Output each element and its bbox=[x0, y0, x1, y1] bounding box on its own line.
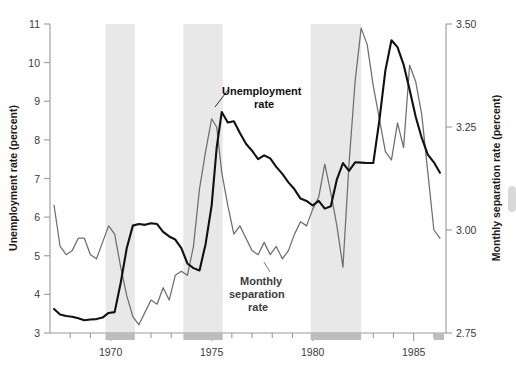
recession-band-foot-1 bbox=[106, 333, 135, 340]
recession-band-foot-4 bbox=[434, 333, 444, 340]
dual-axis-line-chart: 34567891011 2.753.003.253.50 19701975198… bbox=[0, 0, 516, 377]
left-tick-label-7: 7 bbox=[34, 173, 40, 185]
bottom-tick-label-1975: 1975 bbox=[200, 346, 224, 358]
recession-band-foot-2 bbox=[183, 333, 222, 340]
bottom-tick-label-1980: 1980 bbox=[301, 346, 325, 358]
left-tick-label-9: 9 bbox=[34, 95, 40, 107]
right-tick-label-2.75: 2.75 bbox=[456, 327, 477, 339]
left-tick-label-5: 5 bbox=[34, 250, 40, 262]
chart-background bbox=[0, 0, 516, 377]
left-tick-label-3: 3 bbox=[34, 327, 40, 339]
separation-annotation-line2: separation bbox=[229, 288, 285, 300]
left-tick-label-10: 10 bbox=[28, 57, 40, 69]
unemployment-annotation-line1: Unemployment bbox=[222, 85, 302, 97]
recession-band-3 bbox=[311, 24, 362, 333]
separation-annotation-line3: rate bbox=[248, 301, 268, 313]
right-axis-title: Monthly separation rate (percent) bbox=[490, 95, 502, 261]
bottom-tick-label-1985: 1985 bbox=[402, 346, 426, 358]
left-tick-label-11: 11 bbox=[29, 18, 40, 30]
left-axis-title: Unemployment rate (percent) bbox=[7, 105, 19, 251]
right-tick-label-3.25: 3.25 bbox=[456, 121, 477, 133]
chart-container: 34567891011 2.753.003.253.50 19701975198… bbox=[0, 0, 516, 377]
right-tick-label-3: 3.00 bbox=[456, 224, 477, 236]
recession-band-2 bbox=[183, 24, 222, 333]
left-tick-label-8: 8 bbox=[34, 134, 40, 146]
bottom-tick-label-1970: 1970 bbox=[99, 346, 123, 358]
right-tick-label-3.5: 3.50 bbox=[456, 18, 477, 30]
separation-annotation-line1: Monthly bbox=[240, 275, 283, 287]
recession-band-foot-3 bbox=[311, 333, 362, 340]
left-tick-label-6: 6 bbox=[34, 211, 40, 223]
page-edge-artifact bbox=[508, 186, 516, 212]
left-tick-label-4: 4 bbox=[34, 288, 40, 300]
unemployment-annotation-line2: rate bbox=[254, 98, 274, 110]
